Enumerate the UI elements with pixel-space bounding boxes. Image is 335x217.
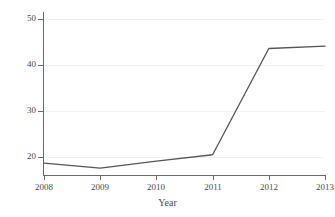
data-series-layer xyxy=(0,0,335,217)
series-line-percent xyxy=(44,46,325,168)
line-chart: 20304050 200820092010201120122013 Percen… xyxy=(0,0,335,217)
